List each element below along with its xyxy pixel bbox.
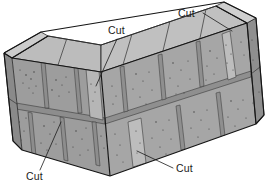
cut-label-top-right: Cut: [178, 7, 195, 19]
masonry-corner-diagram: Cut Cut Cut Cut: [0, 0, 270, 196]
cut-label-bottom-left: Cut: [26, 170, 43, 182]
cut-label-upper-middle: Cut: [108, 24, 125, 36]
masonry-corner-illustration: Cut Cut Cut Cut: [0, 0, 270, 196]
cut-label-bottom-right: Cut: [176, 162, 193, 174]
